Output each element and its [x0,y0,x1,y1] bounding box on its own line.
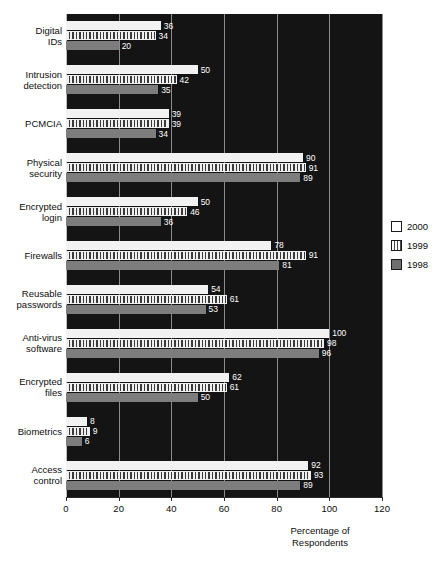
bar-group: 909189 [66,146,382,190]
bar-row: 61 [66,383,382,392]
bar-row: 34 [66,31,382,40]
category-label: Firewalls [0,250,62,261]
bar-1998 [66,85,158,94]
bar-1998 [66,481,300,490]
category-label: Biometrics [0,426,62,437]
bar-value-label: 91 [309,163,318,172]
legend-swatch-icon [391,259,402,270]
bar-row: 92 [66,461,382,470]
bar-row: 100 [66,329,382,338]
bar-2000 [66,241,271,250]
bar-1998 [66,305,206,314]
bar-value-label: 34 [159,31,168,40]
bar-1999 [66,251,306,260]
gridline-120 [382,14,383,497]
bar-row: 78 [66,241,382,250]
bar-row: 35 [66,85,382,94]
bar-row: 81 [66,261,382,270]
bar-1998 [66,129,156,138]
legend-label: 2000 [407,221,428,232]
x-axis-title: Percentage of Respondents [250,525,390,549]
legend-swatch-icon [391,240,402,251]
category-label: Intrusion detection [0,69,62,91]
bar-value-label: 20 [122,41,131,50]
bar-value-label: 8 [90,417,95,426]
bar-group: 1009896 [66,321,382,365]
bar-value-label: 100 [332,329,346,338]
bar-1999 [66,295,227,304]
bar-1998 [66,437,82,446]
bar-group: 626150 [66,365,382,409]
bar-2000 [66,21,161,30]
bar-value-label: 39 [172,119,181,128]
x-tick-mark [119,497,120,501]
bar-1999 [66,207,187,216]
bar-value-label: 6 [85,437,90,446]
bar-2000 [66,329,329,338]
bar-row: 91 [66,251,382,260]
bar-value-label: 35 [161,85,170,94]
x-tick-mark [66,497,67,501]
bar-value-label: 36 [164,21,173,30]
bar-1998 [66,261,279,270]
bar-group: 393934 [66,102,382,146]
bar-value-label: 61 [230,295,239,304]
bar-1999 [66,119,169,128]
bar-1998 [66,349,319,358]
bar-1999 [66,339,324,348]
bar-value-label: 39 [172,109,181,118]
bar-value-label: 89 [303,173,312,182]
bar-row: 89 [66,173,382,182]
category-label: PCMCIA [0,118,62,129]
bar-1998 [66,393,198,402]
bar-row: 50 [66,65,382,74]
x-tick-label: 20 [113,503,124,514]
bar-value-label: 78 [274,241,283,250]
bar-group: 504235 [66,58,382,102]
bar-value-label: 34 [159,129,168,138]
bar-row: 39 [66,119,382,128]
bar-value-label: 50 [201,393,210,402]
bar-value-label: 61 [230,383,239,392]
category-label: Physical security [0,157,62,179]
bar-row: 91 [66,163,382,172]
x-tick-label: 0 [63,503,68,514]
bar-group: 363420 [66,14,382,58]
bar-value-label: 81 [282,261,291,270]
x-tick-label: 40 [166,503,177,514]
bar-row: 46 [66,207,382,216]
bar-2000 [66,373,229,382]
bar-2000 [66,197,198,206]
bar-row: 36 [66,21,382,30]
x-tick-mark [277,497,278,501]
plot-area: 3634205042353939349091895046367891815461… [66,14,382,497]
bar-value-label: 9 [93,427,98,436]
x-tick-label: 100 [321,503,337,514]
legend-item-1998: 1998 [391,257,428,271]
bar-value-label: 36 [164,217,173,226]
x-tick-label: 80 [271,503,282,514]
bar-2000 [66,285,208,294]
bar-2000 [66,461,308,470]
x-tick-mark [224,497,225,501]
bar-1999 [66,427,90,436]
x-tick-mark [382,497,383,501]
bar-1999 [66,471,311,480]
bar-value-label: 93 [314,471,323,480]
bar-row: 9 [66,427,382,436]
legend-item-1999: 1999 [391,238,428,252]
bar-row: 53 [66,305,382,314]
bar-row: 36 [66,217,382,226]
bar-row: 90 [66,153,382,162]
bar-row: 8 [66,417,382,426]
category-label: Reusable passwords [0,288,62,310]
bar-row: 98 [66,339,382,348]
bar-group: 504636 [66,190,382,234]
x-tick-mark [329,497,330,501]
bar-chart: 3634205042353939349091895046367891815461… [0,0,440,568]
bar-row: 96 [66,349,382,358]
bar-value-label: 98 [327,339,336,348]
bar-value-label: 54 [211,285,220,294]
bar-group: 929389 [66,453,382,497]
chart-legend: 200019991998 [391,219,428,276]
